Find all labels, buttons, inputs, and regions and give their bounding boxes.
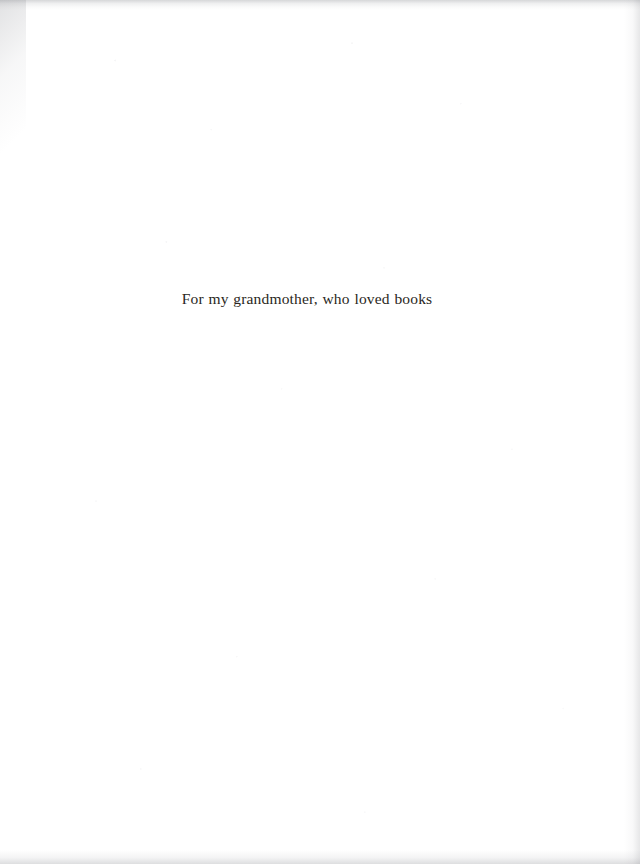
dedication-page: For my grandmother, who loved books [0, 0, 640, 864]
paper-grain-texture [0, 0, 640, 864]
scan-edge-shadow-right [624, 0, 640, 864]
scan-edge-shadow-left [0, 0, 26, 170]
scan-edge-shadow-bottom [0, 850, 640, 864]
scan-edge-shadow-top [0, 0, 640, 10]
dedication-text: For my grandmother, who loved books [182, 289, 433, 309]
dedication-block: For my grandmother, who loved books [0, 289, 640, 309]
